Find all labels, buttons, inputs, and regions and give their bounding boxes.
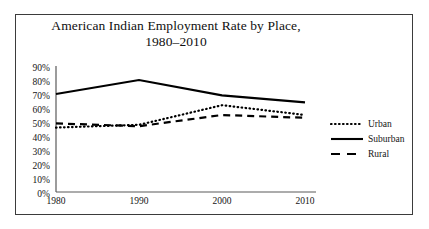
y-tick-30: 30% (18, 147, 50, 157)
chart-figure: American Indian Employment Rate by Place… (0, 0, 429, 229)
x-tick-2010: 2010 (285, 196, 325, 206)
series-line-rural (56, 115, 305, 126)
legend-item-rural: Rural (330, 146, 404, 161)
y-tick-70: 70% (18, 91, 50, 101)
x-tick-1980: 1980 (36, 196, 76, 206)
legend-swatch-urban-dotted (330, 119, 364, 129)
chart-legend: Urban Suburban Rural (330, 116, 404, 161)
legend-swatch-suburban-solid (330, 134, 364, 144)
plot-area (0, 0, 429, 229)
y-tick-50: 50% (18, 119, 50, 129)
y-tick-10: 10% (18, 175, 50, 185)
legend-label-rural: Rural (368, 149, 389, 159)
y-tick-80: 80% (18, 77, 50, 87)
legend-item-suburban: Suburban (330, 131, 404, 146)
legend-swatch-rural-dashed (330, 149, 364, 159)
axis-lines (56, 66, 316, 192)
x-tick-2000: 2000 (202, 196, 242, 206)
x-tick-1990: 1990 (119, 196, 159, 206)
y-tick-20: 20% (18, 161, 50, 171)
legend-item-urban: Urban (330, 116, 404, 131)
legend-label-suburban: Suburban (368, 134, 404, 144)
series-lines (56, 80, 305, 128)
y-tick-40: 40% (18, 133, 50, 143)
series-line-suburban (56, 80, 305, 102)
y-tick-90: 90% (18, 63, 50, 73)
y-tick-60: 60% (18, 105, 50, 115)
legend-label-urban: Urban (368, 119, 392, 129)
